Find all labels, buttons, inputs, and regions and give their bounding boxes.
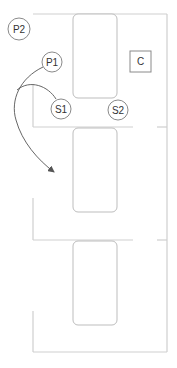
node-c[interactable]: C	[130, 51, 151, 72]
table-room-2	[73, 128, 117, 212]
floor-plan-diagram: P2 P1 S1 S2 C	[0, 0, 177, 368]
s1-label: S1	[55, 104, 68, 115]
path-p1-to-room-2	[14, 67, 54, 172]
node-p1[interactable]: P1	[42, 52, 62, 72]
table-room-1	[73, 14, 117, 98]
p2-label: P2	[13, 24, 26, 35]
p1-label: P1	[46, 57, 59, 68]
node-s2[interactable]: S2	[108, 100, 128, 120]
node-p2[interactable]: P2	[8, 18, 30, 40]
table-room-3	[73, 241, 117, 325]
movement-paths	[14, 67, 56, 172]
tables	[73, 14, 117, 325]
node-s1[interactable]: S1	[51, 99, 71, 119]
c-label: C	[137, 56, 144, 67]
s2-label: S2	[112, 105, 125, 116]
path-s1-arc	[17, 85, 56, 99]
